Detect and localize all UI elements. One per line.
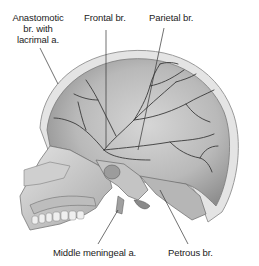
label-line: lacrimal a. <box>4 34 72 45</box>
sphenoid-sinus <box>104 165 120 179</box>
anatomy-figure: Anastomotic br. with lacrimal a. Frontal… <box>0 0 259 266</box>
label-petrous-branch: Petrous br. <box>168 247 213 258</box>
label-anastomotic-branch: Anastomotic br. with lacrimal a. <box>4 12 72 45</box>
mastoid <box>134 200 150 209</box>
leader-middle-meningeal <box>98 210 118 244</box>
label-frontal-branch: Frontal br. <box>84 12 126 23</box>
label-parietal-branch: Parietal br. <box>149 12 193 23</box>
label-middle-meningeal-artery: Middle meningeal a. <box>53 247 136 258</box>
leader-anastomotic <box>40 48 58 84</box>
label-line: Anastomotic <box>4 12 72 23</box>
label-line: br. with <box>4 23 72 34</box>
